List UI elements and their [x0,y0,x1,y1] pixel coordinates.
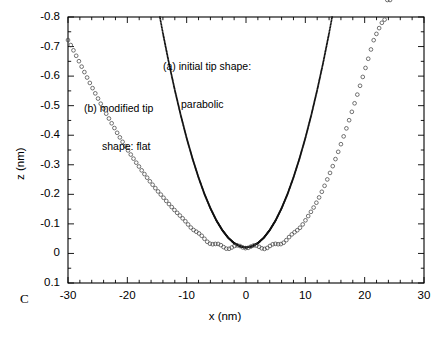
annotation-a-line1: (a) initial tip shape: [163,60,251,73]
y-axis-title: z (nm) [14,147,26,180]
annotation-a-block: (a) initial tip shape: parabolic [163,35,251,135]
y-tick-label: 0.1 [24,276,60,288]
annotation-b-line2: shape: flat [84,140,153,153]
y-tick-label: -0.6 [24,69,60,81]
annotation-b-block: (b) modified tip shape: flat [84,77,153,177]
annotation-b-line1: (b) modified tip [84,102,153,115]
x-tick-label: -10 [167,289,207,301]
x-axis-title: x (nm) [209,310,242,322]
figure-panel-c: -0.8-0.7-0.6-0.5-0.4-0.3-0.2-0.100.1 -30… [0,0,446,337]
y-tick-label: -0.1 [24,217,60,229]
annotation-a-line2: parabolic [163,98,251,111]
y-tick-label: -0.5 [24,99,60,111]
y-tick-label: -0.3 [24,158,60,170]
x-tick-label: 20 [345,289,385,301]
x-tick-label: -20 [107,289,147,301]
x-tick-label: 10 [285,289,325,301]
y-tick-label: -0.8 [24,10,60,22]
y-tick-label: -0.4 [24,128,60,140]
y-tick-label: 0 [24,246,60,258]
x-tick-label: -30 [48,289,88,301]
x-tick-label: 30 [404,289,444,301]
y-tick-label: -0.2 [24,187,60,199]
y-tick-label: -0.7 [24,40,60,52]
x-tick-label: 0 [226,289,266,301]
panel-label: C [20,291,29,307]
